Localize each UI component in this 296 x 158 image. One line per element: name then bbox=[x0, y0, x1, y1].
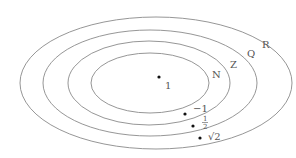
point-half-numerator: 1 bbox=[203, 115, 207, 123]
point-half-denominator: 2 bbox=[203, 123, 207, 131]
point-1-label: 1 bbox=[165, 80, 171, 91]
point-minus1-label: −1 bbox=[193, 103, 208, 114]
point-1-dot bbox=[157, 75, 160, 78]
number-sets-diagram: N Z Q R 1 −1 1 2 √2 bbox=[0, 0, 296, 158]
set-N-ellipse bbox=[91, 53, 209, 113]
set-Q-ellipse bbox=[43, 30, 257, 136]
point-minus1-dot bbox=[183, 112, 186, 115]
set-label-R: R bbox=[262, 39, 270, 50]
set-label-Z: Z bbox=[230, 59, 237, 70]
set-label-Q: Q bbox=[247, 48, 255, 59]
set-R-ellipse bbox=[20, 17, 292, 149]
set-label-N: N bbox=[212, 69, 221, 80]
point-half-dot bbox=[191, 124, 194, 127]
point-sqrt2-label: √2 bbox=[208, 131, 221, 142]
point-sqrt2-dot bbox=[198, 136, 201, 139]
